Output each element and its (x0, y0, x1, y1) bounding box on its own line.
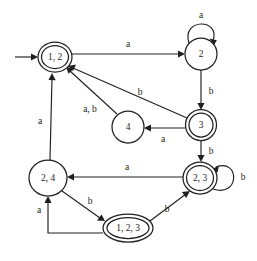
start-arrow (15, 53, 38, 60)
edge-label-ab: a, b (83, 104, 97, 114)
edge-s12-to-s2: a (72, 39, 185, 57)
edge-arrow-head (144, 124, 151, 131)
edge-label-b: b (241, 172, 246, 182)
edge-label-b: b (165, 204, 170, 214)
automaton-diagram-canvas: 2 --> a a 3 --> b 4 --> a 1,2 --> (0, 0, 257, 261)
edge-s4-to-s12: a, b (66, 67, 117, 114)
state-node-2-3[interactable]: 2, 3 (183, 162, 217, 194)
edge-label-b: b (209, 86, 214, 96)
edge-line (50, 78, 52, 160)
state-label: 2, 3 (193, 173, 208, 183)
edge-s3-to-s23: b (197, 141, 213, 162)
edge-label-a: a (37, 205, 42, 215)
edge-arrow-head (197, 155, 204, 162)
state-label: 1, 2, 3 (116, 223, 140, 233)
state-node-3[interactable]: 3 (186, 110, 217, 141)
edge-label-b: b (88, 196, 93, 206)
state-label: 1, 2 (48, 52, 63, 62)
state-node-4[interactable]: 4 (112, 111, 144, 143)
edge-arrow-head (97, 215, 105, 221)
state-node-1-2-3[interactable]: 1, 2, 3 (103, 214, 153, 242)
edge-label-a: a (199, 10, 204, 20)
start-arrow-head (31, 53, 38, 60)
edge-label-a: a (126, 39, 131, 49)
state-label: 2 (199, 49, 204, 59)
edge-label-a: a (161, 134, 166, 144)
edge-arrow-head (178, 50, 185, 57)
edge-s123-to-s23: b (150, 191, 190, 221)
edge-label-b: b (138, 87, 143, 97)
edge-arrow-head (49, 73, 56, 80)
edge-s2-to-s3: b (197, 70, 213, 110)
edge-s24-to-s123: b (62, 191, 105, 221)
edge-line (48, 201, 103, 233)
state-node-1-2[interactable]: 1, 2 (38, 42, 72, 72)
edge-s23-to-s24: a (67, 162, 183, 180)
automaton-svg: 2 --> a a 3 --> b 4 --> a 1,2 --> (0, 0, 257, 261)
state-node-2[interactable]: 2 (185, 38, 217, 70)
edge-s123-to-s24: a (37, 196, 103, 233)
edge-arrow-head (44, 196, 51, 203)
state-node-2-4[interactable]: 2, 4 (29, 160, 67, 196)
edge-arrow-head (67, 173, 74, 180)
edge-s24-to-s12: a (38, 73, 56, 160)
state-label: 2, 4 (41, 173, 56, 183)
state-label: 4 (126, 122, 131, 132)
edge-label-a: a (38, 116, 43, 126)
edge-label-b: b (209, 146, 214, 156)
state-label: 3 (199, 120, 204, 130)
edge-s3-to-s4: a (144, 124, 185, 144)
edge-label-a: a (125, 162, 130, 172)
edge-line (62, 191, 100, 218)
